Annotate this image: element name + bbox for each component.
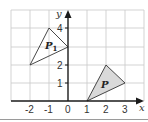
bottom-divider [0, 119, 148, 120]
x-tick-label: 1 [84, 104, 90, 115]
y-tick-label: 4 [57, 23, 63, 34]
y-tick-label: 1 [57, 78, 63, 89]
x-tick-label: 3 [122, 104, 128, 115]
x-tick-label: -2 [25, 104, 34, 115]
y-axis-arrow-icon [65, 10, 72, 18]
x-tick-label: -1 [44, 104, 53, 115]
coordinate-grid-diagram: y x -2 -1 0 1 2 3 1 2 4 P P1 [0, 0, 148, 122]
x-axis-label: x [139, 102, 145, 113]
grid-lines [11, 10, 144, 101]
shape-label-p1: P1 [44, 40, 58, 53]
shape-label-p: P [100, 79, 109, 90]
x-tick-label: 2 [103, 104, 109, 115]
x-tick-label: 0 [65, 104, 71, 115]
y-axis-label: y [55, 8, 62, 19]
y-tick-label: 2 [57, 60, 63, 71]
